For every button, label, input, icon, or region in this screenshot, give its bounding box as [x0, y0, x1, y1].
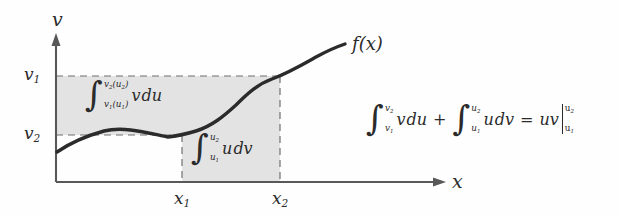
y-tick-v1-base: v	[24, 64, 34, 84]
integral-lower-limit: u1	[210, 153, 219, 163]
lower-limit-subscript: 1	[216, 157, 219, 163]
differential: du	[406, 110, 427, 129]
integral-upper-limit: u2	[210, 133, 219, 143]
y-tick-label-v2: v2	[24, 125, 40, 144]
evaluation-vertical-rule	[562, 104, 563, 134]
evaluation-lower-limit: u1	[565, 124, 574, 134]
upper-region-integral-label: ∫ v2(u2) v1(u1) v du	[85, 80, 162, 111]
differential: dv	[495, 110, 514, 129]
integral-limits: v2 v1	[385, 104, 393, 134]
integral-limits: u2 u1	[471, 104, 480, 134]
upper-limit-arg-subscript: 2	[121, 84, 124, 90]
lower-region-integral: ∫ u2 u1 u dv	[191, 133, 253, 163]
upper-limit-subscript: 2	[390, 108, 393, 114]
integral-lower-limit: u1	[471, 124, 480, 134]
integral-lower-limit: v1(u1)	[104, 100, 128, 110]
integral-lower-limit: v1	[385, 124, 393, 134]
curve-label-base: f	[352, 33, 359, 54]
integrand: v	[131, 86, 140, 105]
curve-label: f(x)	[352, 35, 383, 53]
lower-limit-arg-subscript: 1	[121, 104, 124, 110]
integral-sign: ∫	[191, 135, 209, 160]
eval-lower-subscript: 1	[570, 128, 573, 134]
integrand: u	[483, 110, 493, 129]
differential: dv	[233, 139, 252, 158]
upper-limit-subscript: 2	[216, 137, 219, 143]
x-tick-label-x1: x1	[174, 190, 190, 209]
x-axis-label: x	[452, 172, 463, 191]
integrand: v	[396, 110, 405, 129]
y-axis-label: v	[52, 10, 63, 29]
upper-limit-subscript: 2	[109, 84, 112, 90]
integral-sign: ∫	[366, 106, 384, 131]
x-tick-x2-base: x	[272, 188, 282, 208]
upper-limit-subscript: 2	[477, 108, 480, 114]
integral-limits: u2 u1	[210, 133, 219, 163]
equation-term-2: ∫ u2 u1 u dv	[452, 104, 514, 134]
equals-operator: =	[520, 110, 533, 129]
lower-limit-subscript: 1	[109, 104, 112, 110]
y-axis-arrowhead	[52, 33, 61, 46]
x-tick-label-x2: x2	[272, 190, 288, 209]
integral-limits: v2(u2) v1(u1)	[104, 80, 128, 110]
integrand: u	[222, 139, 232, 158]
lower-region-integral-label: ∫ u2 u1 u dv	[191, 133, 253, 164]
y-tick-v1-subscript: 1	[34, 73, 41, 85]
plus-operator: +	[433, 110, 446, 129]
y-tick-label-v1: v1	[24, 66, 40, 85]
integration-by-parts-equation: ∫ v2 v1 v du + ∫ u2 u1 u dv = uv u2 u1	[366, 104, 574, 134]
x-tick-x1-base: x	[174, 188, 184, 208]
lower-limit-subscript: 1	[477, 128, 480, 134]
x-tick-x2-subscript: 2	[282, 197, 289, 209]
integral-sign: ∫	[452, 106, 470, 131]
integration-by-parts-figure: v x v1 v2 x1 x2 f(x) ∫ v2(u2) v1(u1) v d…	[0, 0, 620, 217]
integral-upper-limit: v2(u2)	[104, 80, 128, 90]
evaluation-upper-limit: u2	[565, 104, 574, 114]
y-tick-v2-base: v	[24, 123, 34, 143]
x-axis-arrowhead	[433, 178, 446, 187]
differential: du	[141, 86, 162, 105]
evaluation-limits: u2 u1	[565, 104, 574, 134]
lower-limit-subscript: 1	[390, 128, 393, 134]
y-tick-v2-subscript: 2	[34, 132, 41, 144]
evaluation-bar: u2 u1	[562, 104, 574, 134]
equation-result: uv	[539, 110, 558, 129]
integral-upper-limit: v2	[385, 104, 393, 114]
upper-region-integral: ∫ v2(u2) v1(u1) v du	[85, 80, 162, 110]
x-tick-x1-subscript: 1	[184, 197, 191, 209]
curve-label-argument: (x)	[359, 33, 383, 54]
integral-sign: ∫	[85, 82, 103, 107]
integral-upper-limit: u2	[471, 104, 480, 114]
eval-upper-subscript: 2	[570, 108, 573, 114]
equation-term-1: ∫ v2 v1 v du	[366, 104, 427, 134]
